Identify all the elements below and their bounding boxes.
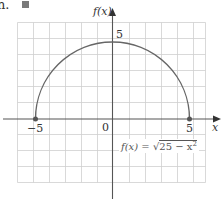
function-equation-label: f(x) = √25 − x2 bbox=[119, 139, 199, 153]
x-axis-label: x bbox=[212, 122, 218, 133]
y-tick-5: 5 bbox=[116, 29, 123, 40]
eq-radicand: 25 − x2 bbox=[159, 140, 197, 152]
grid bbox=[18, 23, 206, 183]
x-tick-neg5: −5 bbox=[27, 123, 43, 134]
function-graph bbox=[0, 0, 223, 200]
endpoint-5 bbox=[187, 117, 192, 122]
eq-lhs: f(x) = bbox=[121, 141, 153, 152]
endpoint-neg5 bbox=[33, 117, 38, 122]
axes bbox=[3, 13, 216, 199]
x-tick-5: 5 bbox=[186, 123, 193, 134]
origin-label: 0 bbox=[102, 122, 109, 133]
y-axis-label: f(x) bbox=[93, 6, 112, 17]
